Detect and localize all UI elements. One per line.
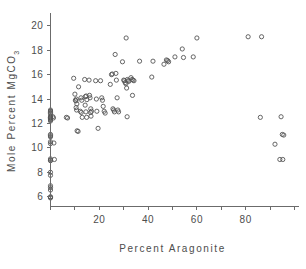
data-point	[281, 157, 285, 161]
y-tick-label: 14	[31, 94, 43, 105]
data-point	[84, 110, 88, 114]
data-point	[94, 97, 98, 101]
x-tick-label: 80	[240, 214, 252, 225]
data-point	[114, 78, 118, 82]
x-axis-title: Percent Aragonite	[119, 243, 226, 254]
data-point	[191, 55, 195, 59]
x-tick-label: 40	[142, 214, 154, 225]
y-tick-label: 20	[31, 20, 43, 31]
data-point	[259, 35, 263, 39]
y-tick-label: 18	[31, 45, 43, 56]
data-point	[73, 92, 77, 96]
y-tick-label: 12	[31, 118, 43, 129]
x-tick-label: 20	[93, 214, 105, 225]
x-tick-label: 60	[191, 214, 203, 225]
data-point	[108, 82, 112, 86]
data-point	[83, 103, 87, 107]
data-point	[195, 36, 199, 40]
data-point	[137, 59, 141, 63]
y-tick-label: 8	[37, 167, 43, 178]
data-point	[150, 75, 154, 79]
chart-canvas: 20406080 68101214161820 Percent Aragonit…	[0, 0, 306, 269]
data-point	[83, 77, 87, 81]
data-point	[273, 142, 277, 146]
data-point	[72, 76, 76, 80]
data-point	[246, 35, 250, 39]
data-point	[173, 55, 177, 59]
axes-group	[51, 13, 299, 207]
data-point	[101, 104, 105, 108]
data-point	[85, 115, 89, 119]
data-point	[279, 115, 283, 119]
data-point	[113, 52, 117, 56]
data-point	[120, 60, 124, 64]
data-point	[162, 62, 166, 66]
data-point	[94, 79, 98, 83]
data-points-group	[48, 35, 285, 200]
data-point	[151, 59, 155, 63]
data-point	[125, 86, 129, 90]
y-axis-title-subscript: 3	[13, 50, 20, 54]
data-point	[96, 126, 100, 130]
data-point	[95, 109, 99, 113]
scatter-plot-figure: 20406080 68101214161820 Percent Aragonit…	[0, 0, 306, 269]
y-tick-label: 10	[31, 142, 43, 153]
data-point	[181, 55, 185, 59]
x-axis-ticks: 20406080	[51, 207, 295, 225]
y-axis-title: Mole Percent MgCO3	[6, 50, 20, 172]
data-point	[125, 115, 129, 119]
data-point	[258, 115, 262, 119]
data-point	[130, 93, 134, 97]
data-point	[98, 79, 102, 83]
data-point	[87, 78, 91, 82]
y-tick-label: 6	[37, 191, 43, 202]
data-point	[115, 96, 119, 100]
y-tick-label: 16	[31, 69, 43, 80]
data-point	[124, 36, 128, 40]
data-point	[180, 47, 184, 51]
data-point	[76, 85, 80, 89]
y-axis-ticks: 68101214161820	[31, 20, 50, 202]
data-point	[80, 115, 84, 119]
data-point	[79, 110, 83, 114]
